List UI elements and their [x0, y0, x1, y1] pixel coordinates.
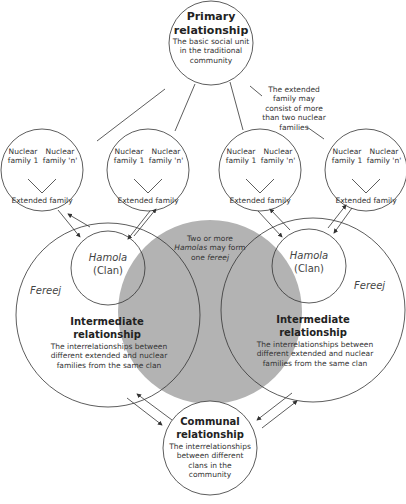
intermediate-title-left: Intermediate relationship [62, 316, 152, 341]
nuclear-family-1-label: Nuclear family 1 [330, 147, 364, 166]
clan-label-right: (Clan) [279, 263, 339, 276]
primary-description: The basic social unit in the traditional… [170, 37, 252, 65]
extended-family-label: Extended family [116, 196, 180, 205]
nuclear-family-1-label: Nuclear family 1 [224, 147, 258, 166]
intermediate-description-left: The interrelationships between different… [48, 342, 170, 370]
primary-title: Primary relationship [171, 10, 251, 38]
extended-family-annotation: The extended family may consist of more … [262, 85, 326, 132]
extended-family-label: Extended family [10, 196, 74, 205]
communal-description: The interrelationships between different… [168, 442, 252, 480]
intermediate-description-right: The interrelationships between different… [254, 340, 376, 368]
nuclear-family-n-label: Nuclear family 'n' [364, 147, 404, 166]
clan-name-left: Hamola [78, 252, 138, 265]
nuclear-family-n-label: Nuclear family 'n' [40, 147, 80, 166]
overlap-note: Two or more Hamolas may form one fereej [168, 234, 252, 262]
fereej-label-right: Fereej [354, 280, 394, 293]
nuclear-family-n-label: Nuclear family 'n' [258, 147, 298, 166]
extended-family-label: Extended family [228, 196, 292, 205]
clan-name-right: Hamola [279, 250, 339, 263]
nuclear-family-1-label: Nuclear family 1 [6, 147, 40, 166]
clan-label-left: (Clan) [78, 265, 138, 278]
overlap-note-line1: Two or more [168, 234, 252, 243]
overlap-note-line2: Hamolas may form [168, 243, 252, 252]
extended-family-label: Extended family [334, 196, 398, 205]
fereej-label-left: Fereej [30, 285, 70, 298]
nuclear-family-1-label: Nuclear family 1 [112, 147, 146, 166]
intermediate-title-right: Intermediate relationship [268, 314, 358, 339]
nuclear-family-n-label: Nuclear family 'n' [146, 147, 186, 166]
communal-title: Communal relationship [170, 416, 250, 441]
overlap-note-line3: one fereej [168, 253, 252, 262]
